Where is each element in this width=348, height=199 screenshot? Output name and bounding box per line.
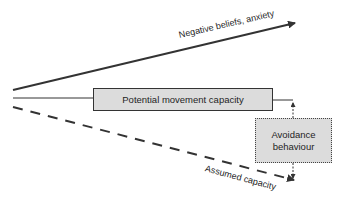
avoidance-line2: behaviour (273, 141, 315, 153)
assumed-capacity-arrow (13, 107, 294, 180)
potential-movement-capacity-box: Potential movement capacity (93, 88, 273, 111)
avoidance-line1: Avoidance (271, 129, 315, 141)
negative-beliefs-arrow (13, 23, 295, 90)
potential-movement-capacity-label: Potential movement capacity (122, 94, 243, 105)
avoidance-behaviour-box: Avoidance behaviour (255, 118, 332, 163)
